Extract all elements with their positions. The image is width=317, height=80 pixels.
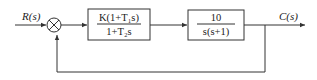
output-label: C(s) bbox=[279, 10, 298, 23]
controller-denominator: 1+T₂s bbox=[106, 26, 131, 37]
plant-block: 10 s(s+1) bbox=[188, 10, 244, 40]
controller-numerator: K(1+T₁s) bbox=[99, 12, 139, 24]
input-label: R(s) bbox=[21, 10, 41, 23]
controller-block: K(1+T₁s) 1+T₂s bbox=[88, 9, 150, 40]
summing-junction bbox=[47, 18, 61, 32]
plant-numerator: 10 bbox=[211, 12, 222, 23]
block-diagram: R(s) K(1+T₁s) 1+T₂s 10 s(s+1) C(s) bbox=[0, 0, 317, 80]
plant-denominator: s(s+1) bbox=[203, 26, 230, 38]
